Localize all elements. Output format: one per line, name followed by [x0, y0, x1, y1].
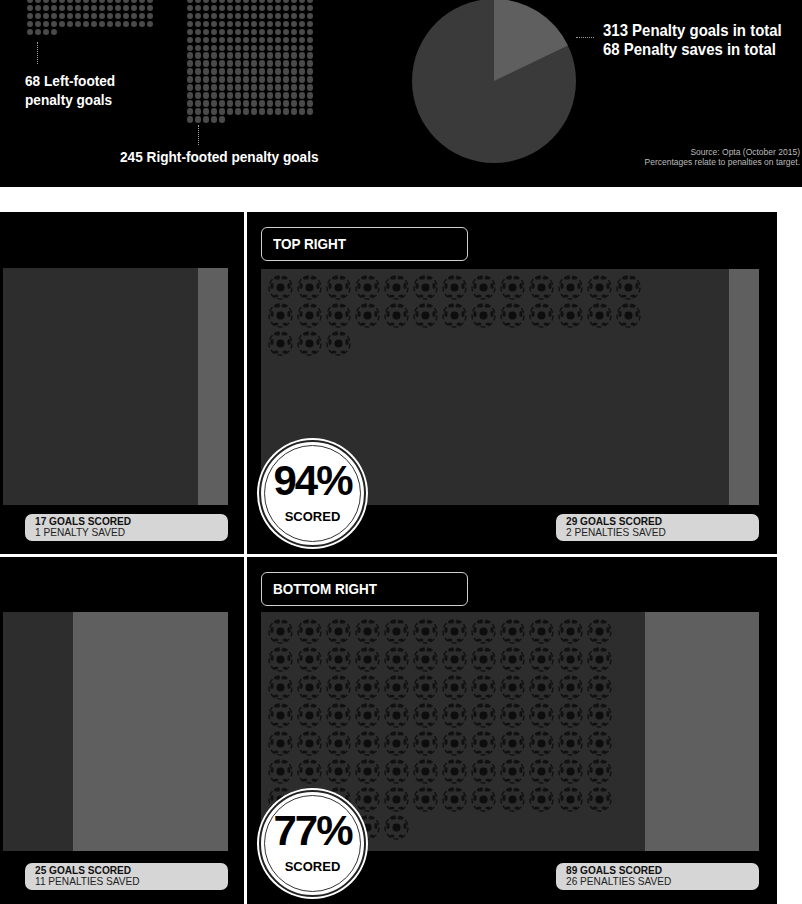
goal-dot	[291, 52, 298, 59]
goal-dot	[195, 45, 202, 52]
football-icon	[529, 703, 554, 728]
goal-dot	[211, 45, 218, 52]
goal-dot	[115, 5, 122, 12]
goal-dot	[235, 84, 242, 91]
goal-dot	[227, 37, 234, 44]
football-icon	[413, 675, 438, 700]
football-icon	[500, 759, 525, 784]
goal-dot	[139, 21, 146, 28]
goal-dot	[211, 13, 218, 20]
goal-dot	[59, 0, 66, 3]
goal-dot	[211, 108, 218, 115]
goal-dot	[251, 29, 258, 36]
goal-dot	[51, 13, 58, 20]
football-icon	[529, 619, 554, 644]
goal-dot	[243, 92, 250, 99]
goal-dot	[219, 116, 226, 123]
football-icon	[355, 703, 380, 728]
goal-dot	[299, 84, 306, 91]
outcome-pie-chart	[410, 0, 578, 165]
football-icon	[587, 675, 612, 700]
goal-dot	[203, 45, 210, 52]
goal-dot	[51, 5, 58, 12]
total-goals-label: 313 Penalty goals in total	[603, 21, 782, 40]
goal-dot	[227, 108, 234, 115]
goal-dot	[219, 29, 226, 36]
football-icon	[442, 787, 467, 812]
goal-dot	[235, 45, 242, 52]
goal-dot	[267, 21, 274, 28]
football-icon	[442, 619, 467, 644]
goal-dot	[131, 5, 138, 12]
goal-dot	[187, 60, 194, 67]
goal-dot	[283, 13, 290, 20]
football-icon	[384, 647, 409, 672]
football-icon	[326, 619, 351, 644]
goal-dot	[227, 13, 234, 20]
goal-dot	[275, 37, 282, 44]
goal-dot	[299, 60, 306, 67]
goal-dot	[235, 60, 242, 67]
goal-dot	[259, 29, 266, 36]
goal-dot	[307, 108, 314, 115]
goal-dot	[227, 29, 234, 36]
goal-dot	[291, 5, 298, 12]
goal-dot	[211, 37, 218, 44]
football-icon	[558, 647, 583, 672]
goal-dot	[235, 100, 242, 107]
goal-dot	[203, 52, 210, 59]
goal-dot	[203, 116, 210, 123]
goal-dot	[203, 13, 210, 20]
goal-dot	[307, 52, 314, 59]
goal-dot	[195, 5, 202, 12]
goal-dot	[203, 100, 210, 107]
goal-dot	[195, 108, 202, 115]
stat-box: 29 GOALS SCORED 2 PENALTIES SAVED	[556, 514, 759, 541]
goal-dot	[203, 92, 210, 99]
goal-dot	[219, 68, 226, 75]
goal-dot	[243, 108, 250, 115]
goal-dot	[219, 76, 226, 83]
percent-label: SCORED	[261, 860, 364, 874]
goal-dot	[99, 5, 106, 12]
goal-dot	[219, 0, 226, 3]
goal-dot	[235, 108, 242, 115]
goal-dot	[187, 0, 194, 3]
football-icon	[587, 647, 612, 672]
left-leader-line	[37, 42, 38, 64]
goal-dot	[51, 29, 58, 36]
goal-dot	[195, 76, 202, 83]
goal-dot	[83, 5, 90, 12]
goal-dot	[227, 21, 234, 28]
football-icon	[500, 647, 525, 672]
goal-dot	[243, 60, 250, 67]
goal-dot	[299, 0, 306, 3]
football-icon	[529, 787, 554, 812]
goal-dot	[219, 21, 226, 28]
goal-dot	[275, 76, 282, 83]
goal-dot	[187, 45, 194, 52]
goal-dot	[267, 29, 274, 36]
goal-dot	[275, 29, 282, 36]
football-icon	[326, 303, 351, 328]
football-icon	[355, 619, 380, 644]
goal-dot	[283, 37, 290, 44]
goal-dot	[211, 100, 218, 107]
goal-dot	[251, 13, 258, 20]
goal-dot	[187, 13, 194, 20]
goal-dot	[243, 45, 250, 52]
football-icon	[529, 759, 554, 784]
saved-region	[645, 612, 759, 851]
goal-dot	[259, 100, 266, 107]
goal-dot	[291, 68, 298, 75]
goal-dot	[291, 45, 298, 52]
football-icon	[442, 675, 467, 700]
goal-dot	[91, 13, 98, 20]
goal-dot	[51, 21, 58, 28]
goal-dot	[307, 21, 314, 28]
football-icon	[500, 303, 525, 328]
saved-region	[729, 269, 759, 505]
goal-dot	[59, 13, 66, 20]
panel-bottom-left: 25 GOALS SCORED 11 PENALTIES SAVED	[0, 557, 244, 904]
goal-dot	[203, 0, 210, 3]
